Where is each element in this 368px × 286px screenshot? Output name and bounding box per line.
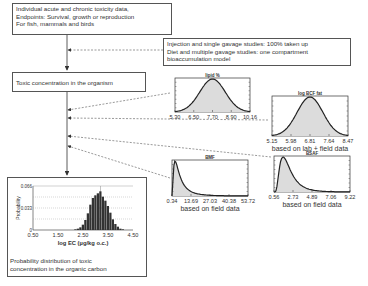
- x-tick-label: 2.50: [78, 232, 89, 238]
- histogram-bar: [94, 195, 96, 230]
- chart-logbcf: log BCF fat5.155.986.817.648.47based on …: [267, 91, 354, 152]
- histogram-bar: [77, 229, 79, 230]
- x-tick-label: 7.70: [207, 114, 218, 120]
- x-tick-label: 1.50: [53, 232, 64, 238]
- histogram-bar: [87, 213, 89, 230]
- histogram-bar: [79, 227, 81, 230]
- y-tick-label: 0.033: [21, 206, 33, 211]
- chart-bsaf: BSAF0.562.734.897.069.22based on field d…: [269, 151, 356, 208]
- x-tick-label: 13.69: [184, 198, 198, 204]
- x-tick-label: 0.56: [269, 194, 280, 200]
- x-tick-label: 9.22: [345, 194, 356, 200]
- chart-caption: based on field data: [282, 201, 341, 208]
- x-tick-label: 5.30: [170, 114, 181, 120]
- chart-title: BMF: [205, 155, 215, 160]
- histogram-bar: [92, 198, 94, 230]
- x-tick-label: 0.34: [167, 198, 178, 204]
- histogram-bar: [102, 197, 104, 230]
- chart-title: BSAF: [306, 151, 319, 156]
- histogram-bar: [112, 219, 114, 230]
- x-tick-label: 4.89: [307, 194, 318, 200]
- x-tick-label: 7.64: [324, 138, 335, 144]
- x-tick-label: 2.73: [288, 194, 299, 200]
- y-tick-label: 0.066: [21, 184, 33, 189]
- histogram-bar: [74, 229, 76, 230]
- lipid-arrow: [68, 93, 170, 110]
- histogram-bar: [122, 229, 124, 230]
- x-tick-label: 5.15: [267, 138, 278, 144]
- histogram-bar: [119, 229, 121, 230]
- x-tick-label: 8.90: [226, 114, 237, 120]
- chart-bmf: BMF0.3413.6927.0340.3853.72based on fiel…: [167, 155, 255, 212]
- bsaf-arrow: [68, 136, 271, 157]
- bmf-arrow: [68, 146, 170, 178]
- histogram-bar: [97, 193, 99, 230]
- histogram-bar: [109, 213, 111, 230]
- x-tick-label: 6.81: [305, 138, 316, 144]
- x-tick-label: 7.06: [326, 194, 337, 200]
- x-tick-label: 5.98: [286, 138, 297, 144]
- diagram-canvas: lipid %5.306.507.708.9010.16log BCF fat5…: [0, 0, 368, 286]
- x-tick-label: 10.16: [243, 114, 257, 120]
- x-tick-label: 4.50: [128, 232, 139, 238]
- histogram-bar: [82, 225, 84, 230]
- x-tick-label: 3.50: [103, 232, 114, 238]
- x-tick-label: 6.50: [188, 114, 199, 120]
- histogram-bar: [114, 224, 116, 230]
- x-tick-label: 53.72: [241, 198, 255, 204]
- x-tick-label: 8.47: [343, 138, 354, 144]
- histogram-bar: [89, 205, 91, 230]
- histogram-bar: [99, 191, 101, 230]
- histogram-bar: [107, 206, 109, 230]
- x-tick-label: 40.38: [222, 198, 236, 204]
- chart-lipid: lipid %5.306.507.708.9010.16: [170, 73, 257, 120]
- chart-title: log BCF fat: [298, 91, 322, 96]
- x-tick-label: 27.03: [203, 198, 217, 204]
- x-axis-label: log EC (µg/kg o.c.): [58, 240, 109, 246]
- chart-result-histogram: 0.501.502.503.504.5000.0330.066log EC (µ…: [15, 184, 138, 247]
- histogram-bar: [104, 201, 106, 230]
- x-tick-label: 0.50: [28, 232, 39, 238]
- y-axis-label: Probability: [15, 196, 21, 220]
- histogram-bar: [84, 220, 86, 230]
- histogram-bar: [117, 227, 119, 230]
- chart-title: lipid %: [205, 73, 220, 78]
- chart-caption: based on field data: [180, 205, 239, 212]
- logbcf-arrow: [68, 118, 268, 120]
